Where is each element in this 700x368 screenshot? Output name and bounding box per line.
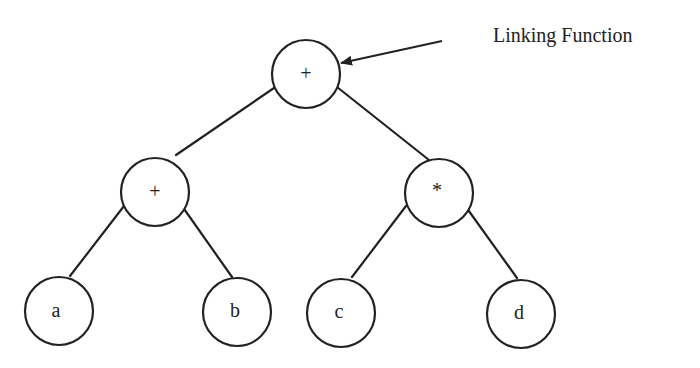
edge-left-op-to-leaf-a	[70, 206, 124, 276]
node-root: +	[272, 40, 340, 108]
linking-function-label: Linking Function	[493, 24, 632, 47]
node-right-op-label: *	[432, 179, 442, 201]
node-leaf-a-label: a	[52, 299, 61, 321]
edge-left-op-to-leaf-b	[182, 206, 232, 277]
edge-root-to-right-op	[337, 87, 429, 160]
node-root-label: +	[300, 62, 311, 84]
annotation-arrow	[341, 41, 442, 63]
edge-right-op-to-leaf-d	[466, 207, 517, 278]
node-leaf-a: a	[25, 277, 93, 345]
edge-right-op-to-leaf-c	[352, 206, 406, 277]
node-leaf-d-label: d	[514, 301, 524, 323]
edge-root-to-left-op	[176, 88, 274, 155]
node-leaf-c: c	[307, 279, 375, 347]
node-leaf-b-label: b	[230, 299, 240, 321]
node-left-op-label: +	[149, 180, 160, 202]
node-leaf-c-label: c	[335, 300, 344, 322]
node-left-op: +	[121, 158, 189, 226]
expression-tree-diagram: + + * a b c d Linking Function	[0, 0, 700, 368]
node-leaf-d: d	[487, 280, 555, 348]
node-leaf-b: b	[203, 278, 271, 346]
node-right-op: *	[405, 159, 473, 227]
